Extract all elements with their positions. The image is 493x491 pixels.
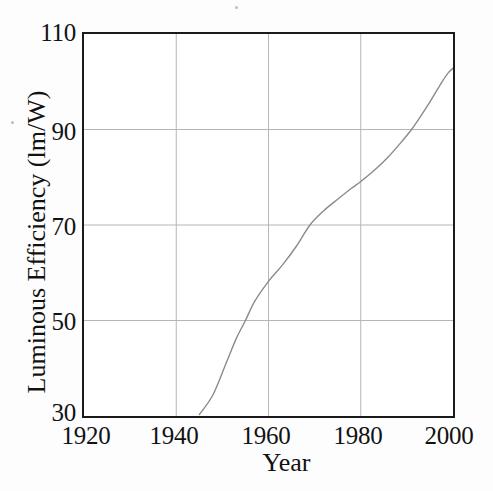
figure-canvas: 110 90 70 50 30 1920 1940 1960 1980 2000… bbox=[0, 0, 493, 491]
x-tick-label-1920: 1920 bbox=[62, 423, 111, 448]
scan-speck-top bbox=[235, 6, 238, 9]
y-axis-title: Luminous Efficiency (lm/W) bbox=[22, 82, 56, 402]
x-axis-title: Year bbox=[0, 448, 493, 478]
y-tick-label-110: 110 bbox=[10, 20, 76, 45]
x-tick-label-1960: 1960 bbox=[242, 423, 291, 448]
x-tick-label-1980: 1980 bbox=[334, 423, 383, 448]
x-tick-label-2000: 2000 bbox=[425, 423, 474, 448]
y-tick-label-30: 30 bbox=[10, 400, 76, 425]
data-line-series bbox=[84, 34, 453, 416]
plot-area bbox=[82, 32, 455, 418]
y-axis-title-text: Luminous Efficiency (lm/W) bbox=[22, 91, 51, 394]
x-tick-label-1940: 1940 bbox=[150, 423, 199, 448]
x-axis-title-text: Year bbox=[183, 448, 311, 477]
